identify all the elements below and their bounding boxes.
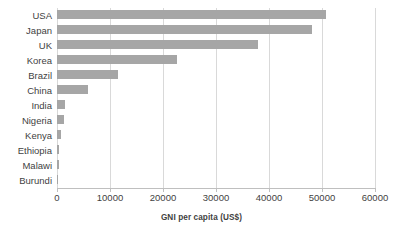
- gridline-60000: [375, 8, 376, 188]
- x-tick-label: 10000: [97, 192, 123, 203]
- category-label-row: Kenya: [0, 128, 52, 143]
- x-tick-label: 30000: [203, 192, 229, 203]
- bar-row: [57, 8, 375, 23]
- x-tick-label: 50000: [309, 192, 335, 203]
- gni-per-capita-bar-chart: USAJapanUKKoreaBrazilChinaIndiaNigeriaKe…: [0, 0, 403, 239]
- bar-row: [57, 83, 375, 98]
- category-label-india: India: [0, 98, 52, 113]
- category-label-malawi: Malawi: [0, 158, 52, 173]
- category-label-row: Ethiopia: [0, 143, 52, 158]
- bar-india: [57, 100, 65, 109]
- bar-row: [57, 128, 375, 143]
- category-label-brazil: Brazil: [0, 68, 52, 83]
- bar-row: [57, 23, 375, 38]
- bar-row: [57, 158, 375, 173]
- x-tick-label: 20000: [150, 192, 176, 203]
- bar-row: [57, 53, 375, 68]
- category-label-japan: Japan: [0, 23, 52, 38]
- x-axis-title: GNI per capita (US$): [0, 213, 403, 222]
- bar-usa: [57, 10, 326, 19]
- bar-kenya: [57, 130, 61, 139]
- bar-burundi: [57, 175, 58, 184]
- category-label-nigeria: Nigeria: [0, 113, 52, 128]
- bar-korea: [57, 55, 177, 64]
- bar-ethiopia: [57, 145, 59, 154]
- category-label-row: Japan: [0, 23, 52, 38]
- bar-row: [57, 38, 375, 53]
- plot-area: [57, 8, 375, 188]
- category-label-china: China: [0, 83, 52, 98]
- category-label-row: Korea: [0, 53, 52, 68]
- category-label-kenya: Kenya: [0, 128, 52, 143]
- bar-japan: [57, 25, 312, 34]
- bar-row: [57, 98, 375, 113]
- category-label-burundi: Burundi: [0, 173, 52, 188]
- category-label-row: USA: [0, 8, 52, 23]
- category-label-row: Malawi: [0, 158, 52, 173]
- category-label-row: Brazil: [0, 68, 52, 83]
- category-label-row: China: [0, 83, 52, 98]
- x-tick-label: 40000: [256, 192, 282, 203]
- category-label-row: UK: [0, 38, 52, 53]
- category-axis-labels: USAJapanUKKoreaBrazilChinaIndiaNigeriaKe…: [0, 8, 53, 188]
- category-label-ethiopia: Ethiopia: [0, 143, 52, 158]
- x-tick-label: 60000: [362, 192, 388, 203]
- bar-malawi: [57, 160, 59, 169]
- category-label-uk: UK: [0, 38, 52, 53]
- bar-row: [57, 113, 375, 128]
- category-label-row: India: [0, 98, 52, 113]
- category-label-row: Burundi: [0, 173, 52, 188]
- bar-brazil: [57, 70, 118, 79]
- bar-row: [57, 68, 375, 83]
- bar-row: [57, 173, 375, 188]
- bar-row: [57, 143, 375, 158]
- bar-china: [57, 85, 88, 94]
- category-label-row: Nigeria: [0, 113, 52, 128]
- bar-uk: [57, 40, 258, 49]
- bar-nigeria: [57, 115, 64, 124]
- x-tick-label: 0: [54, 192, 59, 203]
- category-label-usa: USA: [0, 8, 52, 23]
- category-label-korea: Korea: [0, 53, 52, 68]
